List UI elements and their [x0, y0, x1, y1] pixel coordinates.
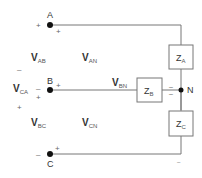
neutral-node: [179, 88, 184, 93]
sign-n-upper-minus: –: [169, 83, 173, 90]
sign-c-right-plus: +: [55, 144, 60, 153]
sign-vbc-plus: +: [17, 103, 22, 112]
sign-a-left-plus: +: [36, 21, 41, 30]
voltage-van-label: VAN: [82, 52, 97, 64]
sign-b-left-minus: –: [36, 84, 41, 93]
voltage-vbc-label: VBC: [31, 117, 47, 129]
terminal-a-label: A: [47, 10, 53, 20]
terminal-b-node: [47, 87, 53, 93]
sign-a-right-plus: +: [56, 27, 61, 36]
terminal-c-node: [47, 151, 53, 157]
sign-b-right-plus: +: [56, 81, 61, 90]
impedance-zb-box: [137, 78, 162, 102]
sign-b-below-plus: +: [36, 93, 41, 102]
voltage-vca-label: VCA: [13, 83, 28, 95]
voltage-vbn-label: VBN: [112, 77, 127, 89]
voltage-vab-label: VAB: [31, 52, 46, 64]
neutral-label: N: [187, 85, 194, 95]
terminal-b-label: B: [47, 76, 53, 86]
wire-c: [50, 136, 181, 154]
wire-a: [50, 25, 181, 45]
sign-bottom-minus: –: [177, 159, 181, 165]
sign-vab-minus: –: [17, 65, 22, 74]
sign-n-lower-minus: –: [169, 90, 173, 97]
terminal-a-node: [47, 22, 53, 28]
three-phase-circuit: ZA ZB ZC A B C N + + – – + + + – + – – –…: [0, 0, 202, 178]
sign-c-left-minus: –: [36, 150, 41, 159]
terminal-c-label: C: [47, 159, 54, 169]
voltage-vcn-label: VCN: [82, 117, 97, 129]
